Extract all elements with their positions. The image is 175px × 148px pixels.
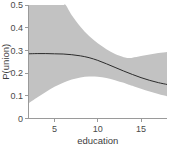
x-axis-tick-labels: 51015: [52, 124, 146, 134]
y-tick-label: 0.1: [10, 91, 23, 101]
y-tick-label: 0.3: [10, 46, 23, 56]
x-axis-title: education: [77, 135, 118, 146]
y-axis-tick-labels: 00.10.20.30.40.5: [10, 0, 23, 124]
y-tick-label: 0: [18, 114, 23, 124]
chart-figure: 00.10.20.30.40.5 51015 education P(union…: [0, 0, 175, 148]
y-tick-label: 0.4: [10, 23, 23, 33]
y-axis-title: P(union): [0, 44, 11, 80]
y-tick-label: 0.2: [10, 68, 23, 78]
x-tick-label: 5: [52, 124, 57, 134]
y-tick-label: 0.5: [10, 0, 23, 10]
x-tick-label: 10: [93, 124, 103, 134]
probability-plot: 00.10.20.30.40.5 51015 education P(union…: [0, 0, 175, 148]
x-tick-label: 15: [136, 124, 146, 134]
